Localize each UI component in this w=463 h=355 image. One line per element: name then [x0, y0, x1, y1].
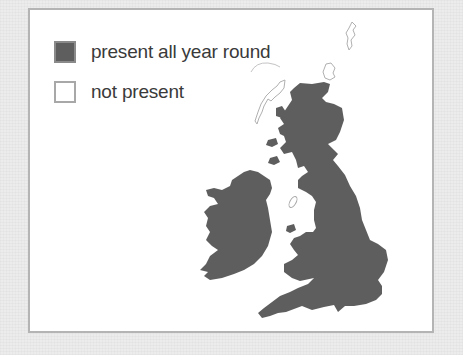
islay-island — [268, 156, 280, 165]
island-arc-outline — [251, 63, 280, 72]
mull-island — [266, 138, 278, 147]
great-britain-landmass — [258, 82, 388, 318]
shetland-outline — [346, 22, 356, 50]
anglesey-island — [286, 224, 296, 233]
ireland-landmass — [200, 170, 272, 280]
orkney-outline — [323, 63, 335, 80]
distribution-map — [0, 0, 463, 355]
isle-of-man-outline — [287, 195, 298, 208]
